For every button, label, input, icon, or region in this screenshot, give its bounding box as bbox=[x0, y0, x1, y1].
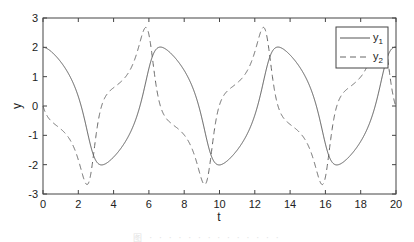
x-tick-label: 6 bbox=[146, 198, 152, 210]
y-tick-label: 3 bbox=[32, 12, 38, 24]
x-tick-label: 16 bbox=[319, 198, 331, 210]
y-tick-labels: -3-2-10123 bbox=[28, 12, 38, 200]
x-tick-label: 20 bbox=[390, 198, 402, 210]
y-tick-label: 1 bbox=[32, 71, 38, 83]
x-tick-label: 0 bbox=[40, 198, 46, 210]
x-tick-label: 10 bbox=[213, 198, 225, 210]
chart: 02468101214161820 -3-2-10123 t y y1 y2 bbox=[0, 0, 414, 242]
y-tick-label: -1 bbox=[28, 129, 38, 141]
x-tick-label: 18 bbox=[355, 198, 367, 210]
figure-caption: 图 · · · · · · · · · · · · · · bbox=[0, 231, 414, 242]
y-axis-label: y bbox=[10, 103, 24, 109]
x-axis-label: t bbox=[217, 210, 221, 224]
x-tick-label: 12 bbox=[249, 198, 261, 210]
y-tick-label: 2 bbox=[32, 41, 38, 53]
x-tick-label: 4 bbox=[111, 198, 117, 210]
y-tick-label: -2 bbox=[28, 159, 38, 171]
y-tick-label: -3 bbox=[28, 188, 38, 200]
x-tick-label: 8 bbox=[181, 198, 187, 210]
x-tick-label: 14 bbox=[284, 198, 296, 210]
x-tick-labels: 02468101214161820 bbox=[40, 198, 402, 210]
x-tick-label: 2 bbox=[75, 198, 81, 210]
legend: y1 y2 bbox=[336, 27, 388, 68]
y-tick-label: 0 bbox=[32, 100, 38, 112]
